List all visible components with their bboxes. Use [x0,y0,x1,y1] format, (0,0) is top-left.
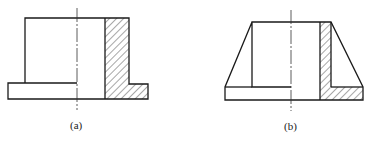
section-hatch-a [105,18,148,99]
figure-b: (b) [225,10,363,133]
section-hatch-b [320,22,363,100]
drawing-canvas: (a) (b) [0,0,370,144]
caption-b: (b) [284,120,297,133]
figure-a: (a) [8,8,148,132]
caption-a: (a) [70,119,83,132]
